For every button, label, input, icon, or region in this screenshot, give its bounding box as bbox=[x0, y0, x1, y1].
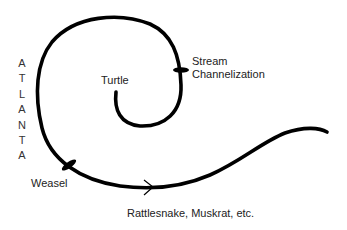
stream-label-line2: Channelization bbox=[192, 68, 265, 81]
atlanta-letter: L bbox=[17, 87, 27, 102]
turtle-label: Turtle bbox=[101, 74, 129, 87]
atlanta-letter: N bbox=[17, 118, 27, 133]
stream-label-line1: Stream bbox=[192, 55, 227, 68]
atlanta-vertical-label: A T L A N T A bbox=[17, 56, 27, 164]
spiral-diagram bbox=[0, 0, 347, 230]
atlanta-letter: T bbox=[17, 71, 27, 86]
rattlesnake-label: Rattlesnake, Muskrat, etc. bbox=[127, 207, 254, 220]
atlanta-letter: A bbox=[17, 148, 27, 163]
spiral-path bbox=[37, 17, 327, 188]
atlanta-letter: T bbox=[17, 133, 27, 148]
weasel-label: Weasel bbox=[31, 177, 67, 190]
atlanta-letter: A bbox=[17, 56, 27, 71]
stream-marker bbox=[173, 67, 189, 73]
atlanta-letter: A bbox=[17, 102, 27, 117]
